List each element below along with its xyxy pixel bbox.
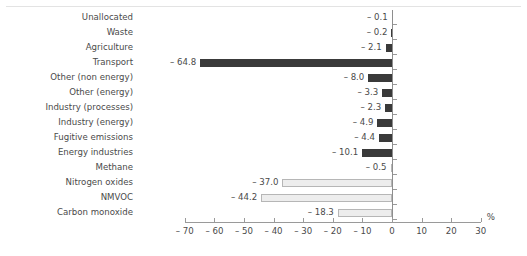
chart-row: Other (non energy)– 8.0: [0, 70, 527, 85]
x-tick-label: 30: [456, 226, 506, 236]
row-tick: [393, 69, 397, 70]
value-label: – 64.8: [170, 55, 196, 70]
x-tick-mark: [333, 218, 334, 222]
chart-row: Methane– 0.5: [0, 160, 527, 175]
category-label: Industry (energy): [0, 115, 133, 130]
x-tick-mark: [481, 218, 482, 222]
row-tick: [393, 54, 397, 55]
value-label: – 10.1: [332, 145, 358, 160]
row-tick: [393, 114, 397, 115]
category-label: Other (non energy): [0, 70, 133, 85]
value-label: – 18.3: [308, 205, 334, 220]
row-tick: [393, 219, 397, 220]
chart-row: Waste– 0.2: [0, 25, 527, 40]
value-label: – 0.2: [367, 25, 388, 40]
row-tick: [393, 84, 397, 85]
chart-row: Carbon monoxide– 18.3: [0, 205, 527, 220]
category-label: Waste: [0, 25, 133, 40]
row-tick: [393, 129, 397, 130]
bar: [377, 119, 392, 127]
x-tick-mark: [451, 218, 452, 222]
chart-row: Unallocated– 0.1: [0, 10, 527, 25]
category-label: NMVOC: [0, 190, 133, 205]
x-axis-unit-label: %: [487, 212, 495, 222]
chart-row: Fugitive emissions– 4.4: [0, 130, 527, 145]
row-tick: [393, 159, 397, 160]
category-label: Energy industries: [0, 145, 133, 160]
category-label: Industry (processes): [0, 100, 133, 115]
chart-row: Other (energy)– 3.3: [0, 85, 527, 100]
x-axis-line: [185, 222, 481, 223]
x-tick-mark: [303, 218, 304, 222]
plot-area: Unallocated– 0.1Waste– 0.2Agriculture– 2…: [0, 0, 527, 256]
chart-row: Energy industries– 10.1: [0, 145, 527, 160]
bar: [338, 209, 392, 217]
category-label: Agriculture: [0, 40, 133, 55]
zero-line: [392, 10, 393, 222]
chart-row: Transport– 64.8: [0, 55, 527, 70]
row-tick: [393, 204, 397, 205]
row-tick: [393, 174, 397, 175]
row-tick: [393, 144, 397, 145]
category-label: Methane: [0, 160, 133, 175]
x-tick-mark: [214, 218, 215, 222]
value-label: – 2.1: [361, 40, 382, 55]
bar: [385, 104, 392, 112]
bar: [368, 74, 392, 82]
bar: [382, 89, 392, 97]
value-label: – 37.0: [252, 175, 278, 190]
category-label: Fugitive emissions: [0, 130, 133, 145]
chart-row: NMVOC– 44.2: [0, 190, 527, 205]
bar: [362, 149, 392, 157]
bar: [261, 194, 392, 202]
value-label: – 4.4: [354, 130, 375, 145]
bar: [200, 59, 392, 67]
chart-row: Agriculture– 2.1: [0, 40, 527, 55]
value-label: – 2.3: [361, 100, 382, 115]
x-tick-mark: [422, 218, 423, 222]
value-label: – 44.2: [231, 190, 257, 205]
x-tick-mark: [392, 218, 393, 222]
row-tick: [393, 24, 397, 25]
x-tick-mark: [274, 218, 275, 222]
value-label: – 3.3: [358, 85, 379, 100]
chart-row: Industry (processes)– 2.3: [0, 100, 527, 115]
x-tick-mark: [185, 218, 186, 222]
value-label: – 0.5: [366, 160, 387, 175]
bar-chart: Unallocated– 0.1Waste– 0.2Agriculture– 2…: [0, 0, 527, 256]
value-label: – 8.0: [344, 70, 365, 85]
bar: [282, 179, 392, 187]
chart-row: Nitrogen oxides– 37.0: [0, 175, 527, 190]
row-tick: [393, 99, 397, 100]
row-tick: [393, 39, 397, 40]
x-tick-mark: [244, 218, 245, 222]
category-label: Transport: [0, 55, 133, 70]
category-label: Nitrogen oxides: [0, 175, 133, 190]
value-label: – 4.9: [353, 115, 374, 130]
category-label: Other (energy): [0, 85, 133, 100]
row-tick: [393, 189, 397, 190]
chart-row: Industry (energy)– 4.9: [0, 115, 527, 130]
bar: [379, 134, 392, 142]
value-label: – 0.1: [367, 10, 388, 25]
category-label: Unallocated: [0, 10, 133, 25]
category-label: Carbon monoxide: [0, 205, 133, 220]
x-tick-mark: [362, 218, 363, 222]
